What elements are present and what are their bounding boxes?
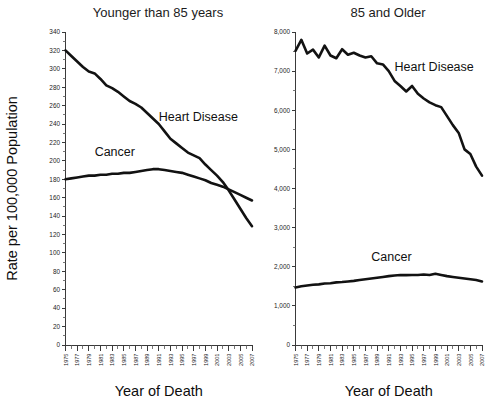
x-tick-label: 1979 <box>316 354 322 366</box>
y-tick-label: 60 <box>53 286 61 293</box>
x-tick-label: 2007 <box>479 354 485 366</box>
x-tick-label: 1975 <box>293 354 299 366</box>
series-label-heart-disease: Heart Disease <box>159 110 238 124</box>
dual-panel-line-chart: Younger than 85 years0204060801001201401… <box>0 0 497 403</box>
x-tick-label: 1981 <box>328 354 334 366</box>
x-tick-label: 2003 <box>456 354 462 366</box>
y-axis-minor-ticks <box>62 32 66 345</box>
series-line-cancer <box>296 274 483 288</box>
series-line-heart-disease <box>66 50 253 226</box>
y-tick-label: 160 <box>49 194 60 201</box>
x-tick-label: 2003 <box>226 354 232 366</box>
x-tick-label: 1983 <box>339 354 345 366</box>
x-tick-label: 1979 <box>86 354 92 366</box>
x-tick-label: 1995 <box>179 354 185 366</box>
x-tick-label: 1985 <box>351 354 357 366</box>
panel-younger-than-85: Younger than 85 years0204060801001201401… <box>4 5 255 399</box>
y-tick-label: 120 <box>49 231 60 238</box>
y-tick-label: 6,000 <box>274 107 290 114</box>
x-axis-ticks <box>296 345 483 351</box>
y-tick-label: 5,000 <box>274 146 290 153</box>
y-tick-label: 4,000 <box>274 185 290 192</box>
x-tick-label: 1977 <box>304 354 310 366</box>
x-tick-label: 1991 <box>386 354 392 366</box>
x-tick-label: 1993 <box>168 354 174 366</box>
y-tick-label: 100 <box>49 249 60 256</box>
y-tick-label: 180 <box>49 176 60 183</box>
y-tick-label: 200 <box>49 157 60 164</box>
y-tick-label: 0 <box>286 341 290 348</box>
y-tick-label: 40 <box>53 304 61 311</box>
cropped-footer-text <box>0 397 497 403</box>
y-tick-label: 7,000 <box>274 67 290 74</box>
series-label-cancer: Cancer <box>371 250 411 264</box>
x-tick-label: 1997 <box>191 354 197 366</box>
x-axis-ticks <box>66 345 253 351</box>
y-tick-label: 260 <box>49 102 60 109</box>
series-label-cancer: Cancer <box>95 145 135 159</box>
y-tick-label: 8,000 <box>274 28 290 35</box>
y-axis-minor-ticks <box>292 32 296 345</box>
x-tick-label: 1975 <box>63 354 69 366</box>
x-tick-label: 1981 <box>98 354 104 366</box>
panel-title-younger-than-85: Younger than 85 years <box>93 5 224 20</box>
y-tick-label: 300 <box>49 65 60 72</box>
x-tick-label: 1977 <box>74 354 80 366</box>
x-tick-label: 1999 <box>203 354 209 366</box>
y-tick-label: 320 <box>49 47 60 54</box>
y-axis-title-younger-than-85: Rate per 100,000 Population <box>4 96 20 281</box>
y-tick-label: 240 <box>49 120 60 127</box>
y-tick-label: 2,000 <box>274 263 290 270</box>
y-tick-label: 20 <box>53 323 61 330</box>
x-tick-label: 1995 <box>409 354 415 366</box>
x-tick-label: 1987 <box>363 354 369 366</box>
x-axis-tick-labels: 1975197719791981198319851987198919911993… <box>63 354 256 366</box>
x-tick-label: 1993 <box>398 354 404 366</box>
x-tick-label: 2005 <box>468 354 474 366</box>
x-tick-label: 2007 <box>249 354 255 366</box>
x-tick-label: 1985 <box>121 354 127 366</box>
y-tick-label: 140 <box>49 212 60 219</box>
x-tick-label: 1989 <box>374 354 380 366</box>
x-tick-label: 2001 <box>214 354 220 366</box>
y-tick-label: 80 <box>53 268 61 275</box>
x-tick-label: 2005 <box>238 354 244 366</box>
x-tick-label: 1987 <box>133 354 139 366</box>
panel-85-and-older: 85 and Older01,0002,0003,0004,0005,0006,… <box>274 5 485 399</box>
x-tick-label: 1983 <box>109 354 115 366</box>
y-tick-label: 280 <box>49 84 60 91</box>
y-axis-tick-labels: 0204060801001201401601802002202402602803… <box>49 28 60 348</box>
x-tick-label: 1999 <box>433 354 439 366</box>
panel-title-85-and-older: 85 and Older <box>350 5 426 20</box>
x-tick-label: 1991 <box>156 354 162 366</box>
y-axis-tick-labels: 01,0002,0003,0004,0005,0006,0007,0008,00… <box>274 28 290 348</box>
x-tick-label: 2001 <box>444 354 450 366</box>
x-tick-label: 1989 <box>144 354 150 366</box>
x-axis-tick-labels: 1975197719791981198319851987198919911993… <box>293 354 486 366</box>
x-tick-label: 1997 <box>421 354 427 366</box>
y-tick-label: 1,000 <box>274 302 290 309</box>
y-tick-label: 3,000 <box>274 224 290 231</box>
series-label-heart-disease: Heart Disease <box>395 60 474 74</box>
y-tick-label: 220 <box>49 139 60 146</box>
y-tick-label: 340 <box>49 28 60 35</box>
y-tick-label: 0 <box>56 341 60 348</box>
